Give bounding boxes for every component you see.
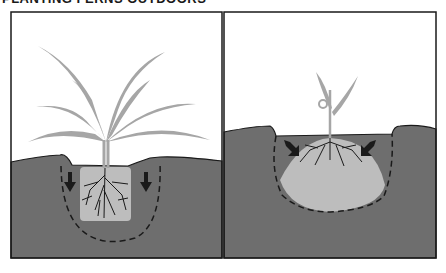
right-panel	[224, 12, 436, 258]
left-panel	[11, 12, 222, 258]
fern-planting-diagram	[0, 0, 446, 273]
